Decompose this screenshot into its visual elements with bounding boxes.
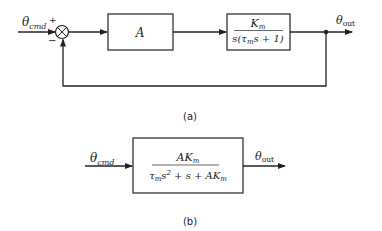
diagram-a: θcmd + − A Km s(τms + 1) θout (a) xyxy=(18,14,355,122)
input-label-a: θcmd xyxy=(22,15,46,31)
diagram-b: θcmd AKm τms2 + s + AKm θout (b) xyxy=(85,138,285,227)
plus-sign: + xyxy=(49,15,57,25)
caption-a: (a) xyxy=(183,111,197,122)
closed-loop-denominator: τms2 + s + AKm xyxy=(149,169,227,183)
minus-sign: − xyxy=(48,35,56,46)
input-label-b: θcmd xyxy=(90,151,114,167)
output-label-a: θout xyxy=(336,14,355,28)
closed-loop-block xyxy=(133,138,243,193)
caption-b: (b) xyxy=(183,216,197,227)
gain-label: A xyxy=(135,26,145,40)
summing-junction xyxy=(56,26,69,39)
block-diagram: θcmd + − A Km s(τms + 1) θout (a) θcmd A… xyxy=(0,0,382,231)
output-label-b: θout xyxy=(255,150,274,164)
